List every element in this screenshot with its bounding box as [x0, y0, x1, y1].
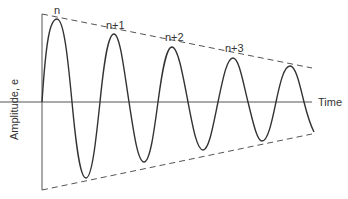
- peak-label-n-plus-2: n+2: [165, 31, 184, 43]
- y-axis-label: Amplitude, e: [8, 79, 20, 140]
- peak-label-n: n: [54, 4, 60, 16]
- lower-envelope: [42, 134, 312, 190]
- peak-label-n-plus-3: n+3: [225, 42, 244, 54]
- damped-oscillation-diagram: n n+1 n+2 n+3 Time Amplitude, e: [0, 0, 348, 199]
- peak-label-n-plus-1: n+1: [106, 19, 125, 31]
- x-axis-label: Time: [318, 96, 342, 108]
